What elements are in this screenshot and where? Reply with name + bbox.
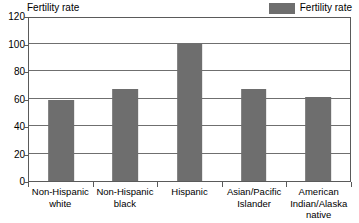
y-axis-title: Fertility rate — [27, 1, 79, 14]
x-axis-label-line: Hispanic — [158, 186, 221, 198]
x-axis-label-line: Asian/Pacific — [223, 186, 286, 198]
chart-legend: Fertility rate — [269, 2, 352, 14]
x-axis-label-3: Asian/PacificIslander — [222, 186, 287, 221]
bar-series — [29, 18, 350, 181]
bar-slot — [29, 18, 93, 181]
x-axis-label-line: Indian/Alaska — [287, 198, 350, 210]
y-tick-mark-80 — [24, 72, 28, 73]
x-axis-label-line: Non-Hispanic — [29, 186, 92, 198]
plot-area — [28, 17, 351, 182]
x-axis-label-4: AmericanIndian/Alaskanative — [286, 186, 351, 221]
x-axis-label-line: black — [94, 198, 157, 210]
bar-slot — [157, 18, 221, 181]
y-tick-mark-20 — [24, 155, 28, 156]
y-tick-label-100: 100 — [8, 40, 25, 50]
y-tick-label-120: 120 — [8, 12, 25, 22]
x-axis-label-1: Non-Hispanicblack — [93, 186, 158, 221]
x-axis-label-line: native — [287, 209, 350, 221]
bar — [305, 97, 331, 181]
bar — [48, 100, 74, 181]
x-axis-label-line: Islander — [223, 198, 286, 210]
x-axis-label-2: Hispanic — [157, 186, 222, 221]
legend-entry-label: Fertility rate — [300, 2, 352, 14]
y-tick-mark-100 — [24, 45, 28, 46]
bar — [177, 44, 203, 182]
x-axis-label-line: white — [29, 198, 92, 210]
bar — [241, 89, 267, 181]
bar — [112, 89, 138, 181]
x-tick-mark-5 — [351, 182, 352, 187]
y-tick-mark-120 — [24, 17, 28, 18]
bar-slot — [222, 18, 286, 181]
x-axis-label-0: Non-Hispanicwhite — [28, 186, 93, 221]
x-axis-label-line: American — [287, 186, 350, 198]
plot-inner — [29, 18, 350, 181]
legend-swatch-icon — [269, 3, 295, 14]
bar-slot — [93, 18, 157, 181]
x-axis-labels: Non-HispanicwhiteNon-HispanicblackHispan… — [28, 186, 351, 221]
x-axis-label-line: Non-Hispanic — [94, 186, 157, 198]
y-tick-mark-60 — [24, 100, 28, 101]
y-tick-mark-40 — [24, 127, 28, 128]
bar-slot — [286, 18, 350, 181]
fertility-rate-bar-chart: Fertility rate Fertility rate 0204060801… — [0, 0, 359, 223]
